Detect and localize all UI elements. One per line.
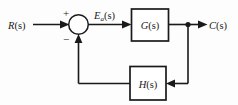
- summing-junction-plus-sign: +: [63, 7, 69, 19]
- summing-junction-minus-sign: −: [63, 33, 69, 45]
- feedback-block-arg: (s): [146, 79, 158, 91]
- input-signal-arg: (s): [14, 20, 26, 32]
- output-signal-arg: (s): [216, 20, 228, 32]
- feedback-block-label: H(s): [138, 79, 158, 91]
- block-diagram-svg: R(s) Ea(s) C(s) G(s) H(s) + −: [0, 0, 238, 105]
- error-signal-label: Ea(s): [93, 10, 116, 23]
- arrowhead-sum-to-forward-block: [122, 21, 132, 29]
- forward-block-label: G(s): [141, 20, 160, 32]
- summing-junction: [69, 15, 89, 35]
- arrowhead-output: [198, 21, 208, 29]
- arrowhead-feedback-to-sum: [75, 34, 83, 43]
- forward-block-arg: (s): [148, 20, 160, 32]
- arrowhead-into-feedback-block: [166, 80, 175, 88]
- error-signal-arg: (s): [104, 10, 116, 22]
- output-signal-label: C(s): [209, 20, 228, 32]
- input-signal-label: R(s): [7, 20, 26, 32]
- block-diagram-canvas: R(s) Ea(s) C(s) G(s) H(s) + −: [0, 0, 238, 105]
